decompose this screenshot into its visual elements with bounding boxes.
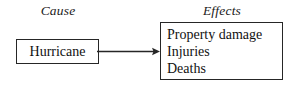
effects-node-box: Property damage Injuries Deaths xyxy=(160,22,283,80)
list-item: Property damage xyxy=(167,26,279,43)
cause-node-label: Hurricane xyxy=(17,40,98,63)
arrow-right-svg xyxy=(97,43,162,60)
arrow-right-icon xyxy=(97,43,162,60)
cause-node-box: Hurricane xyxy=(16,39,99,64)
cause-effect-diagram: Cause Effects Hurricane Property damage … xyxy=(0,0,296,86)
list-item: Deaths xyxy=(167,60,279,77)
effects-column-heading: Effects xyxy=(161,4,283,18)
cause-column-heading: Cause xyxy=(17,4,99,18)
effects-list: Property damage Injuries Deaths xyxy=(167,26,279,77)
list-item: Injuries xyxy=(167,43,279,60)
